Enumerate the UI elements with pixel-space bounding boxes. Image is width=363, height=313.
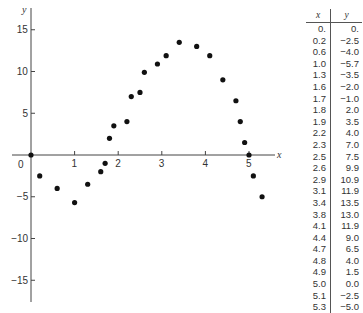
cell-y: 11.9 bbox=[331, 220, 363, 232]
cell-x: 2.9 bbox=[306, 174, 331, 186]
y-tick-label: −5 bbox=[17, 191, 29, 202]
cell-y: 0. bbox=[331, 23, 363, 35]
cell-y: −2.5 bbox=[331, 290, 363, 302]
y-tick-label: 15 bbox=[17, 24, 29, 35]
data-point bbox=[142, 70, 147, 75]
cell-x: 1.0 bbox=[306, 58, 331, 70]
cell-y: 4.0 bbox=[331, 127, 363, 139]
cell-x: 1.9 bbox=[306, 116, 331, 128]
x-tick-label: 1 bbox=[72, 158, 78, 169]
data-point bbox=[137, 90, 142, 95]
cell-y: −3.5 bbox=[331, 69, 363, 81]
data-point bbox=[246, 152, 251, 157]
table-row: 3.111.9 bbox=[306, 185, 362, 197]
cell-x: 2.2 bbox=[306, 127, 331, 139]
table-row: 5.3−5.0 bbox=[306, 301, 362, 313]
cell-y: 11.9 bbox=[331, 185, 363, 197]
y-tick-label: −10 bbox=[11, 233, 28, 244]
cell-x: 4.9 bbox=[306, 266, 331, 278]
column-header-y: y bbox=[331, 9, 363, 23]
table-row: 5.1−2.5 bbox=[306, 290, 362, 302]
table-row: 2.57.5 bbox=[306, 151, 362, 163]
x-tick-label: 2 bbox=[115, 158, 121, 169]
table-row: 0.6−4.0 bbox=[306, 46, 362, 58]
table-row: 4.111.9 bbox=[306, 220, 362, 232]
data-points bbox=[28, 40, 264, 206]
cell-x: 0. bbox=[306, 23, 331, 35]
table-row: 2.910.9 bbox=[306, 174, 362, 186]
table-header-row: x y bbox=[306, 9, 362, 23]
cell-x: 5.0 bbox=[306, 278, 331, 290]
data-point bbox=[238, 119, 243, 124]
y-tick-label: 5 bbox=[22, 108, 28, 119]
data-point bbox=[98, 169, 103, 174]
cell-x: 3.8 bbox=[306, 209, 331, 221]
data-point bbox=[124, 119, 129, 124]
table-row: 1.3−3.5 bbox=[306, 69, 362, 81]
table-row: 2.37.0 bbox=[306, 139, 362, 151]
data-point bbox=[242, 140, 247, 145]
data-point bbox=[259, 194, 264, 199]
cell-x: 1.6 bbox=[306, 81, 331, 93]
data-point bbox=[85, 182, 90, 187]
data-point bbox=[194, 44, 199, 49]
data-point bbox=[55, 186, 60, 191]
data-point bbox=[164, 53, 169, 58]
table-row: 4.76.5 bbox=[306, 243, 362, 255]
data-table: x y 0.0.0.2−2.50.6−4.01.0−5.71.3−3.51.6−… bbox=[306, 9, 362, 313]
cell-x: 4.4 bbox=[306, 232, 331, 244]
cell-y: 6.5 bbox=[331, 243, 363, 255]
cell-x: 3.1 bbox=[306, 185, 331, 197]
table-row: 4.84.0 bbox=[306, 255, 362, 267]
column-header-x: x bbox=[306, 9, 331, 23]
cell-y: −5.7 bbox=[331, 58, 363, 70]
data-point bbox=[107, 136, 112, 141]
table-row: 2.69.9 bbox=[306, 162, 362, 174]
table-row: 3.413.5 bbox=[306, 197, 362, 209]
cell-y: −2.0 bbox=[331, 81, 363, 93]
x-tick-label: 4 bbox=[202, 158, 208, 169]
cell-x: 0.6 bbox=[306, 46, 331, 58]
cell-x: 1.3 bbox=[306, 69, 331, 81]
cell-x: 1.8 bbox=[306, 104, 331, 116]
cell-x: 0.2 bbox=[306, 35, 331, 47]
data-point bbox=[207, 53, 212, 58]
y-tick-label: 10 bbox=[17, 66, 29, 77]
data-point bbox=[111, 123, 116, 128]
table-row: 0.2−2.5 bbox=[306, 35, 362, 47]
cell-y: −2.5 bbox=[331, 35, 363, 47]
table-row: 2.24.0 bbox=[306, 127, 362, 139]
cell-x: 2.3 bbox=[306, 139, 331, 151]
cell-x: 4.1 bbox=[306, 220, 331, 232]
table-row: 1.6−2.0 bbox=[306, 81, 362, 93]
y-tick-label: −15 bbox=[11, 275, 28, 286]
cell-y: 1.5 bbox=[331, 266, 363, 278]
table-row: 4.49.0 bbox=[306, 232, 362, 244]
table-row: 0.0. bbox=[306, 23, 362, 35]
origin-label: 0 bbox=[18, 159, 24, 170]
cell-y: 3.5 bbox=[331, 116, 363, 128]
cell-x: 5.1 bbox=[306, 290, 331, 302]
data-point bbox=[233, 98, 238, 103]
data-point bbox=[177, 40, 182, 45]
cell-x: 2.6 bbox=[306, 162, 331, 174]
cell-y: −1.0 bbox=[331, 93, 363, 105]
data-point bbox=[37, 173, 42, 178]
table-row: 4.91.5 bbox=[306, 266, 362, 278]
data-point bbox=[103, 161, 108, 166]
table-row: 1.0−5.7 bbox=[306, 58, 362, 70]
axes: xy0 bbox=[12, 4, 282, 302]
cell-y: 13.5 bbox=[331, 197, 363, 209]
cell-y: −5.0 bbox=[331, 301, 363, 313]
cell-y: 7.5 bbox=[331, 151, 363, 163]
scatter-plot: xy0 1234515105−5−10−15 bbox=[0, 0, 300, 310]
cell-y: 4.0 bbox=[331, 255, 363, 267]
cell-x: 1.7 bbox=[306, 93, 331, 105]
cell-y: 13.0 bbox=[331, 209, 363, 221]
data-point bbox=[72, 200, 77, 205]
table-row: 1.93.5 bbox=[306, 116, 362, 128]
table-row: 1.7−1.0 bbox=[306, 93, 362, 105]
data-point bbox=[28, 152, 33, 157]
cell-x: 2.5 bbox=[306, 151, 331, 163]
data-point bbox=[155, 61, 160, 66]
